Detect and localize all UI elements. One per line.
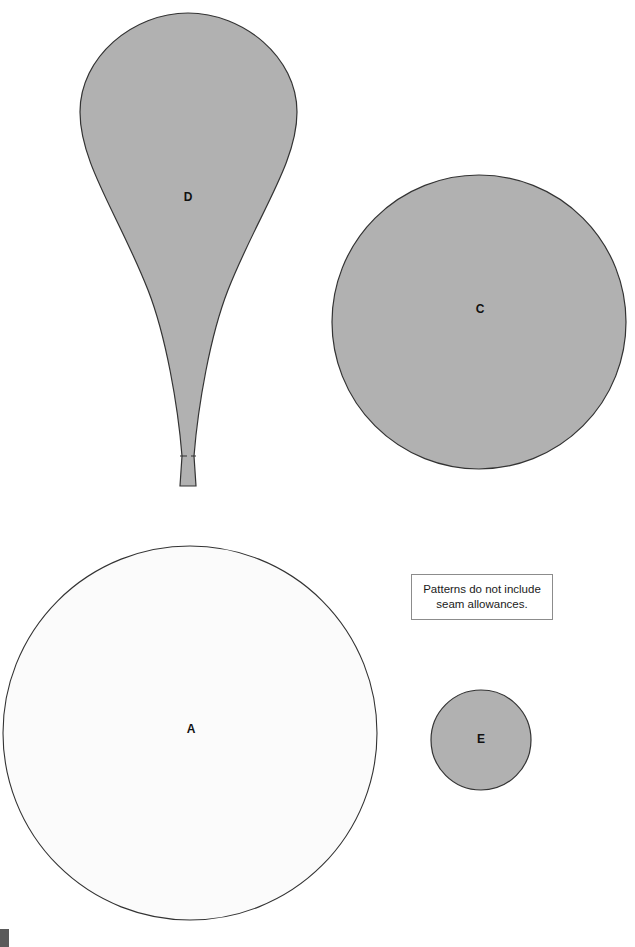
piece-d-outline: [80, 13, 297, 486]
page-corner-mark: [0, 929, 9, 947]
pattern-shapes-canvas: D C A E: [0, 0, 635, 947]
piece-e-label: E: [477, 732, 485, 746]
pattern-piece-d[interactable]: D: [80, 13, 297, 486]
piece-c-label: C: [476, 302, 485, 316]
piece-c-outline: [332, 175, 626, 469]
seam-allowance-note-line-1: Patterns do not include: [423, 582, 541, 597]
pattern-piece-a[interactable]: A: [3, 546, 377, 920]
piece-d-label: D: [184, 190, 193, 204]
pattern-sheet: D C A E Patterns do not include seam all…: [0, 0, 635, 947]
pattern-piece-e[interactable]: E: [431, 690, 531, 790]
seam-allowance-note: Patterns do not include seam allowances.: [411, 574, 553, 620]
piece-a-label: A: [187, 722, 196, 736]
seam-allowance-note-line-2: seam allowances.: [436, 597, 527, 612]
pattern-piece-c[interactable]: C: [332, 175, 626, 469]
